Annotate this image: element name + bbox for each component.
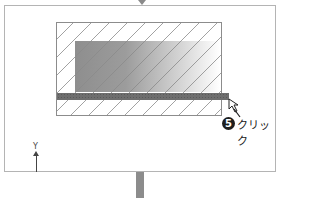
step-number-badge: 5 (222, 117, 235, 130)
y-axis-label: Y (33, 142, 38, 151)
drag-bar[interactable] (57, 93, 229, 100)
step-action-label: クリック (237, 116, 280, 148)
bottom-marker-bar (136, 172, 144, 198)
y-axis-line (36, 154, 37, 172)
cursor-arrow-icon (228, 98, 242, 118)
top-marker-arrow-icon (138, 0, 146, 5)
hatched-outer-rectangle (56, 22, 222, 116)
